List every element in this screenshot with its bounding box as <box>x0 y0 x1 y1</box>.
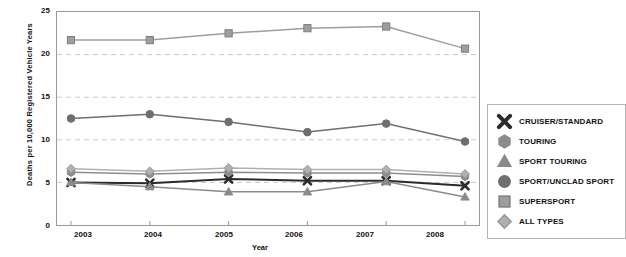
data-point-square <box>383 23 390 30</box>
x-axis-tick: 2003 <box>56 230 110 239</box>
data-point-circle <box>461 138 469 146</box>
legend-label: TOURING <box>519 137 556 146</box>
legend-item-sport-touring: SPORT TOURING <box>495 151 620 171</box>
legend-label: ALL TYPES <box>519 217 564 226</box>
chart-figure: Deaths per 10,000 Registered Vehicle Yea… <box>0 0 626 257</box>
y-axis-tick: 20 <box>24 49 50 58</box>
series-line <box>71 114 465 141</box>
chart-legend: CRUISER/STANDARD TOURING SPORT TOURING S… <box>487 104 626 239</box>
data-point-diamond <box>498 214 511 227</box>
series-line <box>71 27 465 49</box>
legend-label: CRUISER/STANDARD <box>519 117 603 126</box>
triangle-icon <box>495 152 514 171</box>
square-icon <box>495 192 514 211</box>
diamond-icon <box>495 212 514 231</box>
x-axis-tick: 2004 <box>126 230 180 239</box>
data-point-square <box>146 37 153 44</box>
legend-label: SUPERSPORT <box>519 197 575 206</box>
x-cross-icon <box>495 112 514 131</box>
chart-area: Deaths per 10,000 Registered Vehicle Yea… <box>0 0 480 257</box>
x-axis-tick: 2007 <box>338 230 392 239</box>
data-point-square <box>499 196 510 207</box>
y-axis-tick: 10 <box>24 135 50 144</box>
x-axis-tick: 2008 <box>408 230 462 239</box>
series-all-types <box>67 164 470 179</box>
plot-area <box>56 11 480 226</box>
data-point-circle <box>67 115 75 123</box>
data-point-hexagon <box>499 135 510 148</box>
data-point-circle <box>146 110 154 118</box>
y-axis-label: Deaths per 10,000 Registered Vehicle Yea… <box>25 10 34 200</box>
x-axis-tick: 2005 <box>197 230 251 239</box>
data-point-triangle <box>498 155 511 166</box>
legend-item-all-types: ALL TYPES <box>495 211 620 231</box>
data-point-circle <box>304 128 312 136</box>
data-point-square <box>461 45 468 52</box>
circle-icon <box>495 172 514 191</box>
data-point-square <box>225 30 232 37</box>
data-point-square <box>304 25 311 32</box>
x-axis-label: Year <box>160 243 360 252</box>
series-line <box>71 172 465 176</box>
legend-item-touring: TOURING <box>495 131 620 151</box>
data-point-circle <box>499 175 510 186</box>
y-axis-tick: 5 <box>24 178 50 187</box>
y-axis-tick: 25 <box>24 6 50 15</box>
data-point-square <box>67 37 74 44</box>
data-point-x-cross <box>499 115 510 126</box>
x-axis-tick: 2006 <box>267 230 321 239</box>
legend-item-supersport: SUPERSPORT <box>495 191 620 211</box>
legend-item-cruiser-standard: CRUISER/STANDARD <box>495 111 620 131</box>
data-point-circle <box>382 120 390 128</box>
series-supersport <box>67 23 468 52</box>
hexagon-icon <box>495 132 514 151</box>
series-canvas <box>57 12 479 225</box>
y-axis-tick: 15 <box>24 92 50 101</box>
data-point-circle <box>225 118 233 126</box>
legend-label: SPORT TOURING <box>519 157 587 166</box>
legend-item-sport-unclad-sport: SPORT/UNCLAD SPORT <box>495 171 620 191</box>
legend-label: SPORT/UNCLAD SPORT <box>519 177 614 186</box>
y-axis-tick: 0 <box>24 221 50 230</box>
